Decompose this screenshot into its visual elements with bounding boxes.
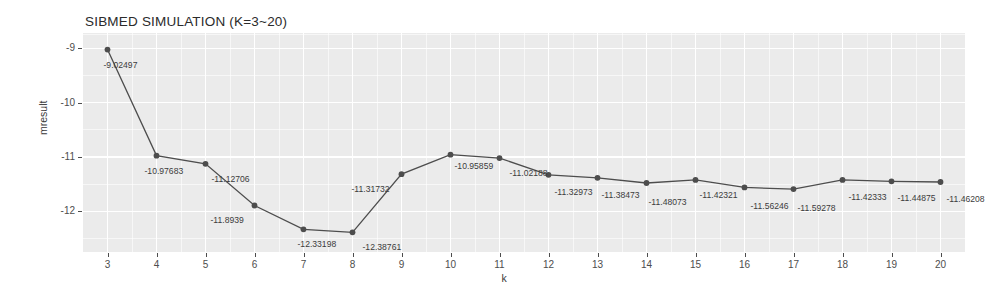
x-tick-mark (745, 253, 746, 257)
x-tick-label: 7 (284, 259, 324, 270)
chart-title: SIBMED SIMULATION (K=3~20) (85, 14, 287, 29)
x-axis-title: k (0, 272, 1008, 284)
data-point-label: -11.42321 (700, 190, 738, 200)
data-point-label: -11.38473 (602, 190, 640, 200)
y-tick-mark (78, 157, 82, 158)
x-tick-mark (794, 253, 795, 257)
data-point (889, 178, 895, 184)
x-tick-mark (451, 253, 452, 257)
x-tick-label: 3 (88, 259, 128, 270)
data-point-label: -11.8939 (211, 215, 244, 225)
y-tick-mark (78, 48, 82, 49)
data-point-label: -11.59278 (798, 203, 836, 213)
x-tick-mark (255, 253, 256, 257)
data-point (938, 179, 944, 185)
x-tick-label: 12 (529, 259, 569, 270)
data-point-label: -11.02188 (510, 168, 548, 178)
y-tick-mark (78, 211, 82, 212)
data-point-label: -11.42333 (849, 192, 887, 202)
x-tick-mark (843, 253, 844, 257)
x-tick-label: 10 (431, 259, 471, 270)
x-tick-mark (304, 253, 305, 257)
x-tick-label: 19 (872, 259, 912, 270)
x-tick-mark (696, 253, 697, 257)
data-point (203, 161, 209, 167)
data-point (595, 175, 601, 181)
x-tick-mark (353, 253, 354, 257)
data-point (252, 203, 258, 209)
y-tick-label: -12 (29, 205, 75, 216)
data-point-label: -11.32973 (555, 187, 593, 197)
y-tick-mark (78, 103, 82, 104)
data-point-label: -9.02497 (104, 60, 138, 70)
x-tick-label: 18 (823, 259, 863, 270)
data-point (105, 47, 111, 53)
data-point (301, 226, 307, 232)
x-tick-label: 9 (382, 259, 422, 270)
x-tick-mark (647, 253, 648, 257)
y-tick-label: -11 (29, 151, 75, 162)
data-point (350, 229, 356, 235)
data-point (644, 180, 650, 186)
x-tick-mark (598, 253, 599, 257)
y-tick-label: -10 (29, 97, 75, 108)
data-point-label: -10.95859 (455, 161, 494, 171)
x-tick-label: 8 (333, 259, 373, 270)
x-tick-mark (941, 253, 942, 257)
data-point-label: -11.56246 (751, 201, 789, 211)
data-point-label: -11.48073 (649, 197, 687, 207)
x-tick-mark (549, 253, 550, 257)
x-tick-label: 6 (235, 259, 275, 270)
x-tick-label: 15 (676, 259, 716, 270)
y-axis-title: mresult (37, 117, 49, 135)
data-point (791, 186, 797, 192)
x-tick-label: 17 (774, 259, 814, 270)
x-tick-mark (157, 253, 158, 257)
x-tick-label: 5 (186, 259, 226, 270)
data-point-label: -11.44875 (898, 193, 936, 203)
x-tick-mark (206, 253, 207, 257)
data-point (448, 152, 454, 158)
x-tick-mark (892, 253, 893, 257)
data-point-label: -11.31732 (352, 184, 390, 194)
data-point (742, 185, 748, 191)
data-point-label: -10.97683 (145, 166, 184, 176)
data-point (693, 177, 699, 183)
x-tick-mark (108, 253, 109, 257)
data-point (497, 155, 503, 161)
x-tick-label: 13 (578, 259, 618, 270)
data-point (154, 153, 160, 159)
x-tick-label: 20 (921, 259, 961, 270)
data-point-label: -11.46208 (947, 194, 985, 204)
x-tick-label: 4 (137, 259, 177, 270)
chart-container: SIBMED SIMULATION (K=3~20) mresult -9-10… (0, 0, 1008, 290)
x-tick-label: 14 (627, 259, 667, 270)
x-tick-label: 11 (480, 259, 520, 270)
data-point-label: -12.38761 (363, 242, 402, 252)
x-tick-label: 16 (725, 259, 765, 270)
data-point-label: -11.12706 (212, 174, 250, 184)
data-point (399, 171, 405, 177)
data-point-label: -12.33198 (298, 239, 337, 249)
y-tick-label: -9 (29, 42, 75, 53)
x-tick-mark (500, 253, 501, 257)
x-tick-mark (402, 253, 403, 257)
data-point (840, 177, 846, 183)
